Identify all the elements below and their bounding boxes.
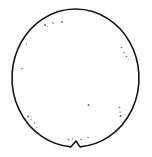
defect-speck bbox=[123, 52, 124, 53]
defect-speck bbox=[47, 26, 48, 27]
defect-speck bbox=[30, 119, 31, 120]
defect-speck bbox=[72, 138, 73, 139]
defect-speck bbox=[121, 47, 123, 49]
wafer-diagram-canvas bbox=[0, 0, 152, 157]
defect-speck bbox=[52, 22, 54, 24]
defect-speck bbox=[87, 137, 89, 139]
defect-speck bbox=[128, 59, 129, 60]
defect-speck bbox=[44, 24, 46, 26]
defect-speck bbox=[26, 43, 27, 44]
defect-speck bbox=[36, 127, 37, 128]
defect-speck bbox=[34, 122, 36, 124]
defect-speck bbox=[27, 116, 29, 118]
wafer-outline-shape bbox=[12, 9, 139, 147]
defect-speck bbox=[21, 68, 23, 70]
defect-speck bbox=[119, 111, 120, 112]
defect-speck bbox=[88, 104, 90, 106]
defect-speck bbox=[80, 139, 82, 141]
defect-speck bbox=[119, 107, 121, 109]
wafer-outline-figure bbox=[0, 0, 152, 157]
defect-speck bbox=[126, 56, 128, 58]
defect-speck bbox=[120, 115, 122, 117]
defect-speck bbox=[68, 139, 70, 141]
defect-speck bbox=[61, 21, 63, 23]
